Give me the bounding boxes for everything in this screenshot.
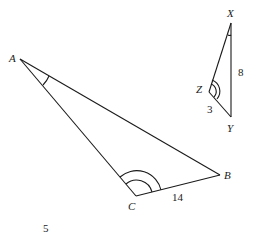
triangle-abc <box>20 59 220 196</box>
side-zy-length: 3 <box>207 103 213 115</box>
page-number: 5 <box>43 222 49 232</box>
vertex-label-x: X <box>226 7 235 19</box>
side-cb-length: 14 <box>172 191 184 203</box>
vertex-label-z: Z <box>196 83 203 95</box>
vertex-label-c: C <box>128 200 136 212</box>
vertex-label-y: Y <box>227 122 235 134</box>
similar-triangles-diagram: A B C 14 X Y Z 8 3 5 <box>0 0 253 232</box>
angle-x-arc <box>228 35 231 36</box>
angle-c-arc-inner <box>126 180 152 192</box>
side-xy-length: 8 <box>238 66 244 78</box>
side-zx <box>209 23 231 92</box>
side-ca <box>20 59 136 196</box>
vertex-label-b: B <box>224 169 231 181</box>
side-ab <box>20 59 220 175</box>
angle-a-arc <box>43 76 49 85</box>
vertex-label-a: A <box>8 52 16 64</box>
